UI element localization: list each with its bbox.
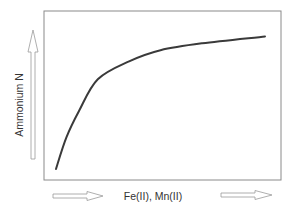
y-axis-label: Ammonium N [13, 73, 25, 137]
plot-frame [44, 11, 281, 180]
y-axis-arrow-icon [28, 30, 38, 159]
x-axis-label: Fe(II), Mn(II) [124, 190, 182, 202]
x-axis-arrow-right-icon [221, 191, 272, 200]
chart: Ammonium N Fe(II), Mn(II) [0, 0, 294, 212]
x-axis-arrow-left-icon [53, 192, 103, 201]
